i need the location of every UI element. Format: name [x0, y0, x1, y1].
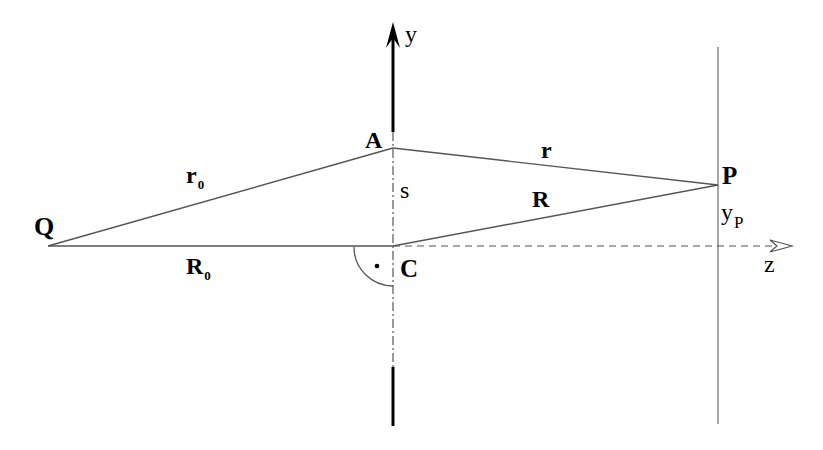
right-angle-arc — [354, 247, 393, 286]
point-P-label: P — [722, 163, 737, 188]
y-axis-label: y — [405, 22, 417, 46]
screen-yP-label: yP — [721, 200, 743, 231]
segment-R0-label: R0 — [186, 254, 211, 282]
segment-R0-subscript: 0 — [204, 268, 211, 283]
segment-r-label: r — [541, 138, 552, 162]
point-C-label: C — [400, 256, 418, 281]
z-axis-label: z — [764, 252, 775, 276]
segment-r0 — [48, 148, 393, 246]
segment-r0-subscript: 0 — [198, 177, 205, 192]
segment-r0-main: r — [186, 162, 197, 188]
point-Q-label: Q — [34, 214, 54, 240]
screen-yP-subscript: P — [734, 213, 743, 232]
segment-R-label: R — [532, 187, 549, 211]
segment-R — [393, 185, 718, 246]
right-angle-dot — [375, 264, 380, 269]
screen-yP-main: y — [721, 199, 733, 225]
point-A-label: A — [365, 128, 382, 152]
segment-s-label: s — [400, 178, 409, 202]
diagonal-diffraction-diagram: y A s C Q r0 R0 r R P yP z — [0, 0, 823, 450]
diagram-lines — [0, 0, 823, 450]
segment-R0-main: R — [186, 253, 203, 279]
segment-r — [393, 148, 718, 185]
segment-r0-label: r0 — [186, 163, 204, 191]
